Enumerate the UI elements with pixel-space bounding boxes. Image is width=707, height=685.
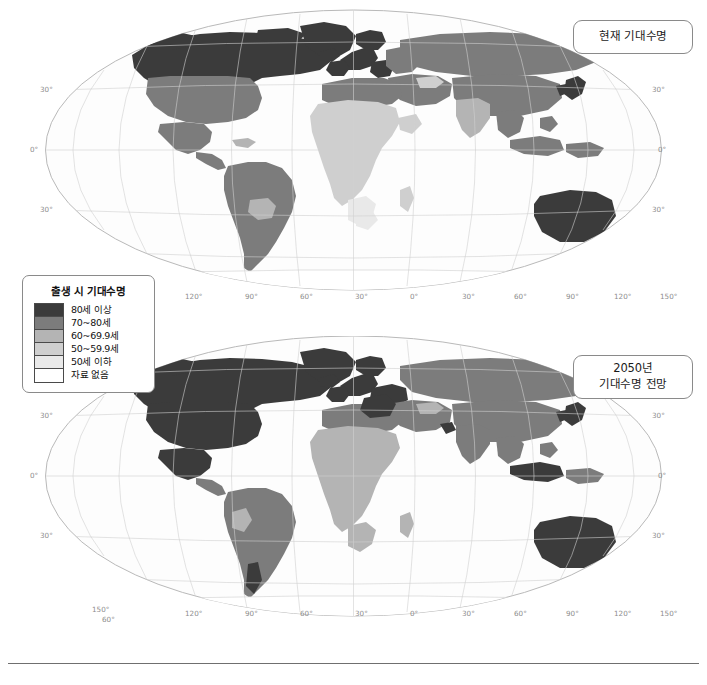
legend-swatch-3 bbox=[35, 343, 63, 356]
lat-label-right-0-2050: 0° bbox=[658, 471, 666, 480]
legend-swatch-5 bbox=[35, 369, 63, 382]
lon-label-0: 0° bbox=[410, 292, 418, 301]
lon-label-150e-2050: 150° bbox=[660, 609, 677, 618]
lat-label-left-0: 0° bbox=[30, 145, 38, 154]
legend-label-column: 80세 이상 70~80세 60~69.9세 50~59.9세 50세 이하 자… bbox=[71, 303, 119, 383]
lon-label-60e: 60° bbox=[514, 292, 527, 301]
legend-label-5: 자료 없음 bbox=[71, 368, 119, 381]
lon-label-60w: 60° bbox=[300, 292, 313, 301]
legend-swatch-column bbox=[34, 303, 64, 383]
lat-label-right-30s-2050: 30° bbox=[652, 531, 665, 540]
region-russia bbox=[400, 32, 600, 76]
lon-label-30e-2050: 30° bbox=[462, 609, 475, 618]
lon-label-30w-2050: 30° bbox=[355, 609, 368, 618]
legend-label-4: 50세 이하 bbox=[71, 355, 119, 368]
region-new-zealand-2050 bbox=[622, 560, 644, 582]
lon-label-90e-2050: 90° bbox=[566, 609, 579, 618]
lat-label-left-30n-2050: 30° bbox=[40, 411, 53, 420]
lon-label-60w-2050: 60° bbox=[300, 609, 313, 618]
lon-label-90w: 90° bbox=[245, 292, 258, 301]
region-australia bbox=[534, 190, 616, 242]
lon-label-corner-60-2050: 60° bbox=[102, 615, 115, 624]
lon-label-120e: 120° bbox=[614, 292, 631, 301]
legend-rows: 80세 이상 70~80세 60~69.9세 50~59.9세 50세 이하 자… bbox=[23, 303, 154, 383]
map-figure: 30° 0° 30° 30° 0° 30° 150° 60° 120° 90° … bbox=[0, 0, 707, 685]
callout-2050-projection: 2050년 기대수명 전망 bbox=[573, 355, 693, 399]
legend-label-0: 80세 이상 bbox=[71, 303, 119, 316]
lat-label-left-30s-2050: 30° bbox=[40, 531, 53, 540]
footer-divider bbox=[8, 663, 699, 664]
lon-label-60e-2050: 60° bbox=[514, 609, 527, 618]
lon-label-30e: 30° bbox=[462, 292, 475, 301]
lon-label-90e: 90° bbox=[566, 292, 579, 301]
lat-label-right-30n: 30° bbox=[652, 85, 665, 94]
lon-label-120e-2050: 120° bbox=[614, 609, 631, 618]
legend-swatch-1 bbox=[35, 317, 63, 330]
lon-label-30w: 30° bbox=[355, 292, 368, 301]
callout-2050-line-2: 기대수명 전망 bbox=[599, 377, 667, 393]
region-australia-2050 bbox=[534, 516, 616, 568]
lat-label-right-30n-2050: 30° bbox=[652, 411, 665, 420]
legend-swatch-4 bbox=[35, 356, 63, 369]
lat-label-right-0: 0° bbox=[658, 145, 666, 154]
legend-title: 출생 시 기대수명 bbox=[23, 283, 154, 298]
lon-label-90w-2050: 90° bbox=[245, 609, 258, 618]
legend-swatch-0 bbox=[35, 304, 63, 317]
lon-label-120w-2050: 120° bbox=[185, 609, 202, 618]
lat-label-right-30s: 30° bbox=[652, 205, 665, 214]
callout-current-life-expectancy: 현재 기대수명 bbox=[573, 20, 693, 54]
legend-label-3: 50~59.9세 bbox=[71, 342, 119, 355]
lat-label-left-30s: 30° bbox=[40, 205, 53, 214]
callout-current-line-1: 현재 기대수명 bbox=[599, 29, 667, 45]
legend-label-2: 60~69.9세 bbox=[71, 329, 119, 342]
lat-label-left-0-2050: 0° bbox=[30, 471, 38, 480]
region-russia-2050 bbox=[400, 358, 600, 402]
callout-2050-line-1: 2050년 bbox=[599, 361, 667, 377]
lon-label-150e: 150° bbox=[660, 292, 677, 301]
lon-label-120w: 120° bbox=[185, 292, 202, 301]
lon-label-150w-2050: 150° bbox=[92, 605, 109, 614]
lat-label-left-30n: 30° bbox=[40, 85, 53, 94]
lon-label-0-2050: 0° bbox=[410, 609, 418, 618]
legend-label-1: 70~80세 bbox=[71, 316, 119, 329]
region-new-zealand bbox=[622, 234, 644, 256]
legend-swatch-2 bbox=[35, 330, 63, 343]
map-legend: 출생 시 기대수명 80세 이상 70~80세 60~69.9세 50~59.9… bbox=[22, 275, 155, 393]
